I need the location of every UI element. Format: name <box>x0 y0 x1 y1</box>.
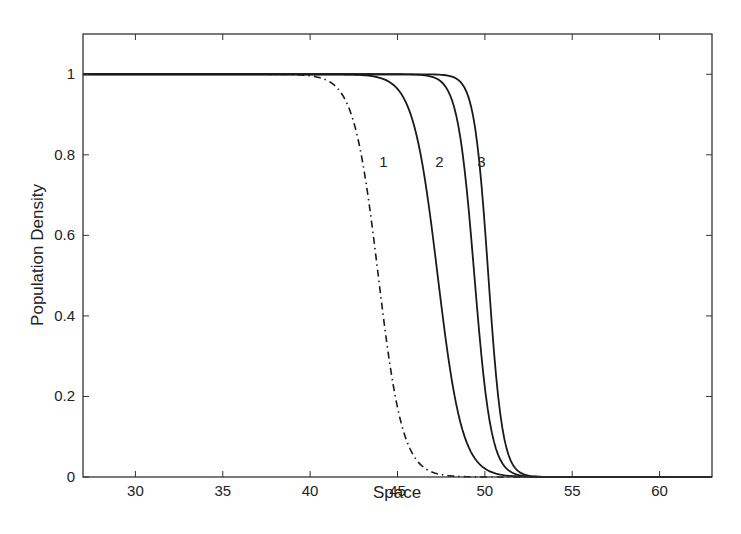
population-density-chart: 30354045505560 00.20.40.60.81 123 Space … <box>0 0 741 534</box>
x-tick-label: 50 <box>477 482 494 499</box>
curve-labels: 123 <box>379 153 485 170</box>
curve-1 <box>83 74 712 477</box>
y-axis-ticks: 00.20.40.60.81 <box>54 65 712 485</box>
curve-label-3: 3 <box>477 153 485 170</box>
y-tick-label: 1 <box>67 65 75 82</box>
curves <box>83 74 712 477</box>
y-tick-label: 0.8 <box>54 146 75 163</box>
x-tick-label: 55 <box>564 482 581 499</box>
x-tick-label: 60 <box>651 482 668 499</box>
x-axis-ticks: 30354045505560 <box>127 34 668 499</box>
curve-dash-dot <box>83 74 712 477</box>
y-tick-label: 0 <box>67 468 75 485</box>
plot-frame <box>83 34 712 477</box>
curve-label-2: 2 <box>435 153 443 170</box>
y-tick-label: 0.4 <box>54 307 75 324</box>
x-tick-label: 40 <box>302 482 319 499</box>
x-axis-title: Space <box>373 483 421 502</box>
curve-2 <box>83 74 712 477</box>
curve-label-1: 1 <box>379 153 387 170</box>
y-tick-label: 0.2 <box>54 387 75 404</box>
x-tick-label: 30 <box>127 482 144 499</box>
y-axis-title: Population Density <box>28 184 47 326</box>
curve-3 <box>83 74 712 477</box>
x-tick-label: 35 <box>214 482 231 499</box>
y-tick-label: 0.6 <box>54 226 75 243</box>
